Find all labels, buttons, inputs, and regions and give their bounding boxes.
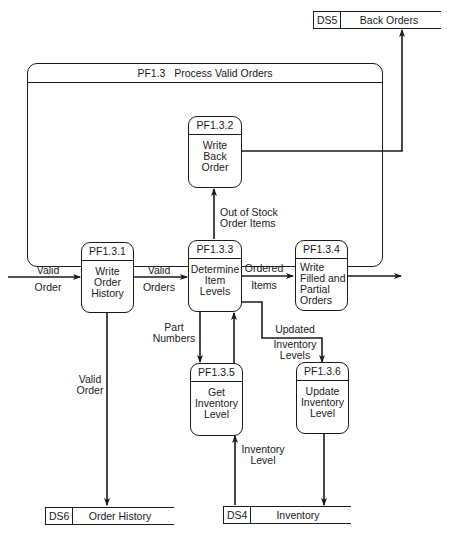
process-name: Get Inventory Level [191,382,242,420]
flow-label-valid-order-down: Valid Order [70,374,110,396]
data-store-ds4[interactable]: DS4 Inventory [223,506,351,524]
process-pf1-3-2[interactable]: PF1.3.2 Write Back Order [188,116,242,188]
process-pf1-3-5[interactable]: PF1.3.5 Get Inventory Level [190,363,243,436]
process-pf1-3-6[interactable]: PF1.3.6 Update Inventory Level [296,362,349,434]
data-store-ds5[interactable]: DS5 Back Orders [313,11,441,29]
data-store-name: Order History [70,508,170,524]
process-id: PF1.3.5 [191,364,242,382]
process-pf1-3-3[interactable]: PF1.3.3 Determine Item Levels [188,240,242,312]
flow-label-inventory-level: Inventory Level [238,444,288,466]
flow-label-part-numbers: Part Numbers [152,322,196,344]
process-id: PF1.3.4 [296,241,347,259]
flow-label-valid-order-in: Valid Order [30,265,66,293]
flow-label-out-of-stock: Out of Stock Order Items [220,207,278,229]
flow-label-ordered-items: Ordered Items [244,263,284,291]
process-name: Determine Item Levels [189,259,241,297]
process-name: Write Filled and Partial Orders [296,259,347,306]
flow-label-updated-inventory: Updated Inventory Levels [270,324,320,361]
process-name: Update Inventory Level [297,381,348,419]
data-store-name: Inventory [248,507,348,523]
process-id: PF1.3.6 [297,363,348,381]
process-pf1-3-1[interactable]: PF1.3.1 Write Order History [81,242,134,313]
process-id: PF1.3.1 [82,243,133,261]
process-id: PF1.3.3 [189,241,241,259]
data-store-id: DS5 [313,12,341,28]
data-store-name: Back Orders [339,12,439,28]
data-store-ds6[interactable]: DS6 Order History [45,507,174,525]
process-name: Write Order History [82,261,133,299]
process-pf1-3-4[interactable]: PF1.3.4 Write Filled and Partial Orders [295,240,348,311]
process-id: PF1.3.2 [189,117,241,135]
process-name: Write Back Order [189,135,241,173]
flow-label-valid-orders: Valid Orders [140,265,178,293]
